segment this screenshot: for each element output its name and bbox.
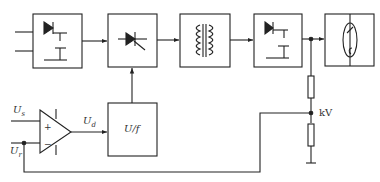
- voltage-divider: [306, 39, 316, 163]
- tube-icon: [343, 14, 357, 66]
- thyristor-block: [108, 14, 157, 67]
- hv-rectifier-filter-block: [254, 14, 302, 67]
- resistor-bottom-icon: [308, 124, 314, 146]
- rectifier-filter-block: [33, 14, 82, 68]
- thyristor-icon: [118, 32, 147, 50]
- x-ray-tube-block: [325, 14, 374, 66]
- transformer-icon: [196, 24, 213, 57]
- diode-capacitor-icon: [265, 22, 289, 58]
- error-label: Ud: [83, 116, 96, 129]
- feedback-line: [24, 113, 311, 172]
- transformer-block: [180, 14, 230, 67]
- minus-sign: −: [44, 140, 52, 149]
- resistor-top-icon: [308, 76, 314, 98]
- diode-capacitor-icon: [44, 22, 67, 60]
- plus-sign: +: [44, 123, 52, 132]
- kv-label: kV: [319, 108, 332, 118]
- setpoint-label: Us: [13, 105, 25, 118]
- vf-block-label: U/f: [124, 124, 140, 134]
- block-diagram: [0, 0, 380, 182]
- feedback-label: Ur: [10, 146, 22, 159]
